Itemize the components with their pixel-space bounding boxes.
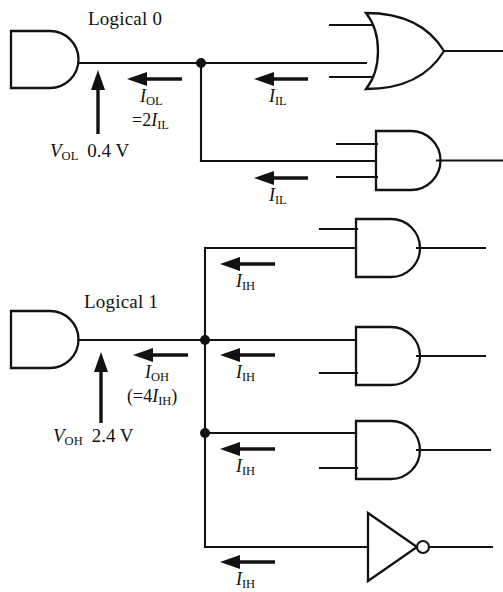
low-voltage-symbol: V [50,140,62,161]
high-load-current-label-3: IIH [236,457,255,475]
low-state-label: Logical 0 [88,9,162,28]
low-voltage-value: 0.4 V [87,140,129,161]
low-load-current-subscript-1: IL [275,94,287,108]
inverter-bubble [417,541,429,553]
low-load-current-arrow-2 [254,171,308,185]
high-load-current-subscript-4: IH [242,577,255,591]
high-voltage-subscript: OH [65,434,83,448]
high-load-current-label-4: IIH [236,570,255,588]
fanout-current-diagram: Logical 0 IOL =2IIL VOL0.4 V IIL IIL Log… [0,0,503,592]
high-load-current-label-2: IIH [236,363,255,381]
high-voltage-symbol: V [53,425,65,446]
low-load-current-subscript-2: IL [275,193,287,207]
high-load-current-arrow-4 [220,555,275,569]
low-voltage-subscript: OL [62,149,79,163]
high-driver-gate-and [11,311,79,368]
high-load-current-subscript-2: IH [242,370,255,384]
high-relation-close: ) [171,386,177,406]
low-voltage-arrow [91,70,105,134]
high-source-current-relation: (=4IIH) [127,387,177,405]
low-source-current-relation: =2IIL [132,111,169,129]
high-load-current-arrow-1 [220,257,275,271]
low-voltage-label: VOL0.4 V [50,141,129,160]
low-source-current-label: IOL [140,87,162,105]
high-source-current-subscript: OH [151,370,169,384]
high-load-current-subscript-3: IH [242,464,255,478]
high-relation-subscript: IH [158,394,171,408]
high-load-gate-and-2 [320,327,485,385]
high-load-current-arrow-3 [220,442,275,456]
high-source-current-label: IOH [145,363,169,381]
low-load-current-arrow-1 [254,72,308,86]
low-source-current-subscript: OL [146,94,162,108]
high-load-current-arrow-2 [220,348,275,362]
high-load-gate-not [368,513,492,581]
high-load-current-label-1: IIH [236,272,255,290]
high-voltage-value: 2.4 V [92,425,134,446]
high-load-gate-and-3 [320,421,490,479]
high-relation-operator: (=4 [127,386,152,406]
low-driver-gate-and [11,31,79,88]
low-load-current-label-1: IIL [269,87,287,105]
high-voltage-label: VOH2.4 V [53,426,134,445]
low-load-current-label-2: IIL [269,186,287,204]
high-source-current-arrow [133,348,188,362]
low-source-current-arrow [127,72,182,86]
high-load-current-subscript-1: IH [242,279,255,293]
low-load-gate-or [330,13,503,89]
low-relation-operator: =2 [132,110,151,130]
diagram-canvas [0,0,503,592]
high-voltage-arrow [94,352,108,423]
high-state-label: Logical 1 [84,292,158,311]
low-relation-subscript: IL [157,118,169,132]
